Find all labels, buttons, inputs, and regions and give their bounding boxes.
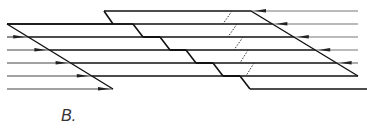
z-step-line xyxy=(186,50,196,63)
left-interface-diagonal xyxy=(7,24,113,89)
z-step-line xyxy=(240,76,250,89)
left-arrow-icon xyxy=(297,35,309,39)
z-step-line xyxy=(104,11,113,24)
dotted-link-line xyxy=(228,24,237,37)
z-step-line xyxy=(160,37,170,50)
dotted-link-line xyxy=(234,37,243,50)
figure-label: B. xyxy=(61,107,76,125)
left-arrow-icon xyxy=(275,22,287,26)
refraction-diagram xyxy=(0,0,367,137)
left-arrow-icon xyxy=(254,9,266,13)
z-step-line xyxy=(133,24,143,37)
z-step-line xyxy=(213,63,223,76)
left-arrow-icon xyxy=(340,61,352,65)
right-arrow-icon xyxy=(77,74,89,78)
right-arrow-icon xyxy=(34,48,46,52)
right-arrow-icon xyxy=(56,61,68,65)
dotted-link-line xyxy=(240,50,248,63)
dotted-link-line xyxy=(223,11,232,24)
right-interface-diagonal xyxy=(251,11,358,76)
right-arrow-icon xyxy=(98,87,110,91)
left-arrow-icon xyxy=(318,48,330,52)
dotted-link-line xyxy=(246,63,254,76)
right-arrow-icon xyxy=(13,35,25,39)
